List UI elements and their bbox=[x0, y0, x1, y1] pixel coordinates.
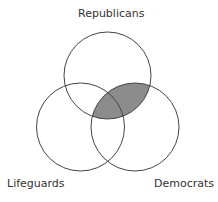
label-democrats: Democrats bbox=[154, 177, 214, 190]
label-lifeguards: Lifeguards bbox=[7, 177, 65, 190]
circle-lifeguards bbox=[37, 83, 125, 171]
venn-diagram bbox=[0, 0, 218, 202]
label-republicans: Republicans bbox=[78, 7, 144, 20]
